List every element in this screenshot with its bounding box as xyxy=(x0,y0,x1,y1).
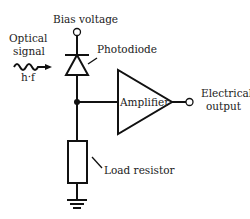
optical-wave-arrow-icon xyxy=(14,64,52,70)
circuit-svg: Bias voltage Photodiode Optical signal h… xyxy=(0,0,250,219)
amplifier-label: Amplifier xyxy=(119,96,170,108)
optical-label-line2: signal xyxy=(13,45,45,57)
photodiode-label: Photodiode xyxy=(97,43,157,55)
photon-energy-label: h·f xyxy=(21,71,36,83)
electrical-output-line1: Electrical xyxy=(201,87,250,99)
photodiode-icon xyxy=(65,55,89,75)
load-resistor-leader xyxy=(92,157,102,168)
bias-terminal-icon xyxy=(74,29,81,36)
ground-icon xyxy=(67,200,87,208)
output-terminal-icon xyxy=(186,99,193,106)
electrical-output-line2: output xyxy=(206,100,242,112)
bias-voltage-label: Bias voltage xyxy=(53,13,118,25)
load-resistor-icon xyxy=(68,141,87,183)
photodiode-leader xyxy=(88,58,97,64)
circuit-diagram: Bias voltage Photodiode Optical signal h… xyxy=(0,0,250,219)
load-resistor-label: Load resistor xyxy=(104,164,176,176)
optical-label-line1: Optical xyxy=(9,32,48,44)
